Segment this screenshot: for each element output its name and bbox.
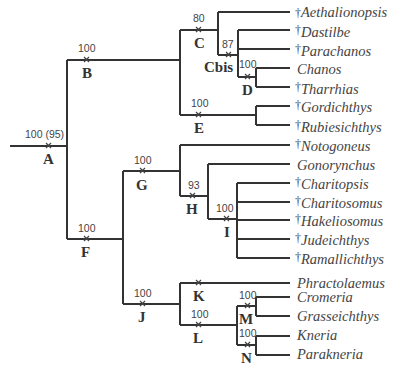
support-e: 100 [191,97,209,109]
node-label-g: G [136,177,148,193]
support-l: 100 [191,308,209,320]
support-m: 100 [239,289,257,301]
taxon-ramallichthys: †Ramallichthys [295,250,384,267]
node-label-cbis: Cbis [204,59,233,75]
taxon-grasseichthys: Grasseichthys [297,308,380,324]
taxon-gonorynchus: Gonorynchus [297,157,375,173]
node-label-m: M [239,311,253,327]
taxon-parakneria: Parakneria [296,346,363,362]
taxon-chanos: Chanos [297,61,342,77]
support-a: 100 (95) [25,128,64,140]
taxon-hakeliosomus: †Hakeliosomus [295,212,384,229]
taxon-dastilbe: †Dastilbe [295,23,351,40]
taxon-notogoneus: †Notogoneus [295,137,371,154]
support-f: 100 [78,222,96,234]
node-label-n: N [241,350,252,366]
taxon-charitopsis: †Charitopsis [295,175,369,192]
support-d: 100 [239,58,257,70]
node-label-a: A [43,151,54,167]
support-h: 93 [188,179,200,191]
support-n: 100 [239,327,257,339]
branch-g [123,145,290,196]
node-label-c: C [194,35,205,51]
taxon-kneria: Kneria [296,327,337,343]
node-label-i: I [224,224,230,240]
support-c: 80 [193,12,205,24]
taxon-charitosomus: †Charitosomus [295,194,383,211]
support-j: 100 [134,287,152,299]
branch-f [67,171,123,304]
node-labels: A B C Cbis D E F G H I J K L M N [43,35,253,366]
taxon-tharrhias: †Tharrhias [295,80,359,97]
support-g: 100 [134,154,152,166]
node-label-f: F [81,244,90,260]
support-cbis: 87 [222,38,234,50]
node-label-h: H [186,201,198,217]
support-i: 100 [216,202,234,214]
node-label-d: D [242,82,253,98]
node-markers [46,27,250,347]
taxon-aethalionopsis: †Aethalionopsis [295,4,388,20]
node-label-k: K [193,288,205,304]
node-label-b: B [82,65,92,81]
taxon-judeichthys: †Judeichthys [295,231,370,248]
taxon-labels: †Aethalionopsis †Dastilbe †Parachanos Ch… [295,4,388,362]
taxon-rubiesichthys: †Rubiesichthys [295,118,382,135]
node-label-e: E [194,120,204,136]
support-b: 100 [78,42,96,54]
taxon-gordichthys: †Gordichthys [295,98,373,115]
node-label-j: J [138,309,146,325]
branch-i [208,183,290,258]
phylogenetic-tree: 100 (95) 100 80 87 100 100 100 100 93 10… [0,0,405,372]
node-label-l: L [193,330,203,346]
taxon-cromeria: Cromeria [297,289,353,305]
taxon-parachanos: †Parachanos [295,42,371,59]
